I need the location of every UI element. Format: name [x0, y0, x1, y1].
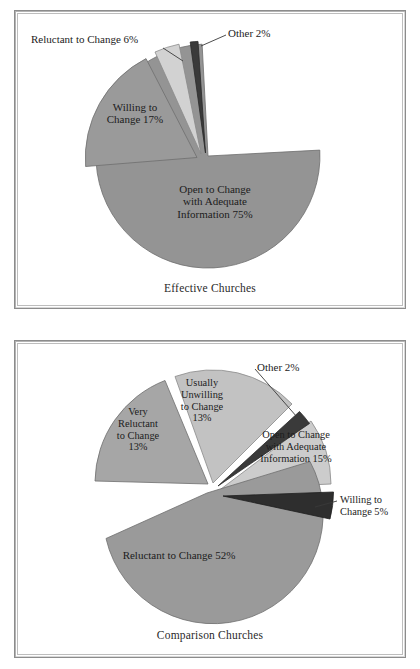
pie-label-line: with Adequate [153, 195, 277, 207]
pie-label-other: Other 2% [228, 27, 270, 39]
pie-label-other: Other 2% [257, 361, 299, 373]
pie-chart-effective-churches: Reluctant to Change 6% Other 2% Willing … [15, 11, 405, 308]
pie-label-line: Other 2% [228, 27, 270, 39]
pie-label-very-reluctant-to-change: Very Reluctant to Change 13% [99, 406, 177, 453]
slice-reluctant-to-change [106, 462, 323, 624]
pie-label-line: Willing to [340, 494, 388, 506]
pie-label-line: Unwilling [163, 389, 241, 401]
pie-label-line: Usually [163, 377, 241, 389]
pie-label-line: Change 5% [340, 506, 388, 518]
pie-label-willing-to-change: Willing to Change 17% [87, 101, 183, 126]
pie-label-line: Reluctant to Change 52% [99, 549, 259, 561]
pie-label-line: to Change [99, 430, 177, 442]
pie-label-line: Open to Change [153, 183, 277, 195]
pie-label-open-to-change: Open to Change with Adequate Information… [240, 429, 352, 464]
pie-label-line: Change 17% [87, 113, 183, 125]
pie-label-line: Other 2% [257, 361, 299, 373]
chart-panel-comparison-churches: Other 2% Usually Unwilling to Change 13%… [14, 340, 406, 658]
pie-label-line: with Adequate [240, 441, 352, 453]
pie-label-reluctant-to-change: Reluctant to Change 52% [99, 549, 259, 561]
chart-panel-effective-churches: Reluctant to Change 6% Other 2% Willing … [14, 10, 406, 309]
pie-label-line: Very [99, 406, 177, 418]
pie-label-line: Information 15% [240, 453, 352, 465]
pie-label-line: Open to Change [240, 429, 352, 441]
pie-chart-comparison-churches: Other 2% Usually Unwilling to Change 13%… [15, 341, 405, 657]
pie-label-line: Reluctant to Change 6% [31, 33, 138, 45]
figure-page: Reluctant to Change 6% Other 2% Willing … [0, 0, 420, 669]
pie-label-line: 13% [99, 441, 177, 453]
pie-label-open-to-change: Open to Change with Adequate Information… [153, 183, 277, 220]
chart-caption-comparison-churches: Comparison Churches [15, 629, 405, 641]
pie-label-willing-to-change: Willing to Change 5% [340, 494, 388, 518]
pie-svg-effective [15, 11, 407, 310]
pie-slices-effective [85, 41, 320, 268]
pie-label-line: Information 75% [153, 208, 277, 220]
pie-label-line: Reluctant [99, 418, 177, 430]
pie-label-line: Willing to [87, 101, 183, 113]
chart-caption-effective-churches: Effective Churches [15, 282, 405, 294]
pie-label-reluctant-to-change: Reluctant to Change 6% [31, 33, 138, 45]
